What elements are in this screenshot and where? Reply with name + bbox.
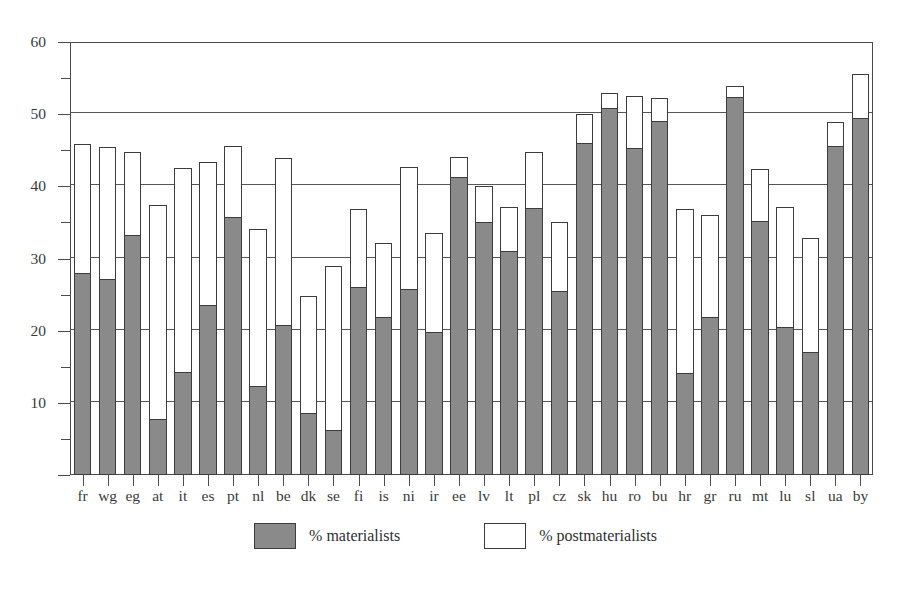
bar-group-is — [375, 42, 393, 475]
bar-group-by — [852, 42, 870, 475]
bar-group-eg — [124, 42, 142, 475]
bar-materialists-hr — [676, 373, 694, 475]
y-tick-minor-55 — [61, 78, 70, 79]
x-tick-pl — [534, 475, 535, 486]
y-tick-label-40: 40 — [31, 179, 47, 195]
bar-materialists-pl — [525, 208, 543, 475]
x-tick-label-ru: ru — [729, 488, 742, 504]
x-tick-wg — [108, 475, 109, 486]
x-tick-label-lu: lu — [779, 488, 791, 504]
x-tick-ua — [835, 475, 836, 486]
bar-group-ru — [726, 42, 744, 475]
x-tick-label-is: is — [379, 488, 389, 504]
bar-group-lu — [776, 42, 794, 475]
bar-group-wg — [99, 42, 117, 475]
x-tick-eg — [133, 475, 134, 486]
x-tick-by — [860, 475, 861, 486]
x-tick-is — [384, 475, 385, 486]
x-tick-label-bu: bu — [652, 488, 668, 504]
bars-layer — [70, 42, 873, 475]
bar-materialists-wg — [99, 279, 117, 475]
x-tick-fi — [359, 475, 360, 486]
bar-group-at — [149, 42, 167, 475]
y-tick-minor-25 — [61, 295, 70, 296]
x-tick-label-ro: ro — [628, 488, 641, 504]
x-tick-label-mt: mt — [752, 488, 768, 504]
bar-materialists-es — [199, 305, 217, 475]
y-tick-label-30: 30 — [31, 251, 47, 267]
bar-group-fi — [350, 42, 368, 475]
bar-group-hr — [676, 42, 694, 475]
x-tick-label-by: by — [853, 488, 869, 504]
x-tick-hu — [610, 475, 611, 486]
x-tick-label-fi: fi — [354, 488, 363, 504]
x-tick-label-sk: sk — [578, 488, 592, 504]
x-tick-label-lt: lt — [505, 488, 514, 504]
bar-materialists-fi — [350, 287, 368, 475]
x-tick-se — [333, 475, 334, 486]
x-tick-ee — [459, 475, 460, 486]
bar-group-pt — [224, 42, 242, 475]
x-tick-ro — [635, 475, 636, 486]
y-tick-20 — [58, 331, 70, 332]
x-tick-label-ee: ee — [452, 488, 466, 504]
x-tick-hr — [685, 475, 686, 486]
bar-group-fr — [74, 42, 92, 475]
x-tick-label-be: be — [276, 488, 291, 504]
bar-materialists-fr — [74, 273, 92, 475]
bar-materialists-ro — [626, 148, 644, 475]
x-tick-label-es: es — [202, 488, 215, 504]
bar-group-ir — [425, 42, 443, 475]
bar-group-be — [275, 42, 293, 475]
legend-swatch-postmaterialists — [484, 523, 526, 549]
y-tick-minor-15 — [61, 367, 70, 368]
bar-group-dk — [300, 42, 318, 475]
y-tick-40 — [58, 186, 70, 187]
x-axis: frwgegatitesptnlbedksefiisniireelvltplcz… — [70, 475, 873, 515]
x-tick-label-gr: gr — [703, 488, 716, 504]
x-tick-ir — [434, 475, 435, 486]
x-tick-ni — [409, 475, 410, 486]
bar-group-cz — [551, 42, 569, 475]
bar-materialists-it — [174, 372, 192, 475]
bar-group-nl — [249, 42, 267, 475]
legend-swatch-materialists — [254, 523, 296, 549]
y-tick-minor-45 — [61, 150, 70, 151]
legend-item-postmaterialists: % postmaterialists — [484, 523, 657, 549]
x-tick-sl — [810, 475, 811, 486]
x-tick-ru — [735, 475, 736, 486]
x-tick-be — [283, 475, 284, 486]
bar-materialists-hu — [601, 108, 619, 475]
bar-materialists-mt — [751, 221, 769, 475]
bar-materialists-cz — [551, 291, 569, 475]
x-tick-it — [183, 475, 184, 486]
x-tick-label-hu: hu — [602, 488, 618, 504]
x-tick-label-eg: eg — [125, 488, 140, 504]
x-tick-lu — [785, 475, 786, 486]
x-tick-gr — [710, 475, 711, 486]
x-tick-label-fr: fr — [77, 488, 87, 504]
x-tick-label-it: it — [179, 488, 188, 504]
x-tick-bu — [660, 475, 661, 486]
x-tick-fr — [83, 475, 84, 486]
x-tick-label-pt: pt — [227, 488, 239, 504]
bar-materialists-ua — [827, 146, 845, 475]
x-tick-label-at: at — [152, 488, 163, 504]
x-tick-label-wg: wg — [98, 488, 117, 504]
bar-group-mt — [751, 42, 769, 475]
x-tick-label-lv: lv — [478, 488, 490, 504]
bar-group-lv — [475, 42, 493, 475]
y-tick-label-50: 50 — [31, 106, 47, 122]
y-axis: 102030405060 — [0, 0, 70, 597]
y-tick-50 — [58, 114, 70, 115]
x-tick-label-nl: nl — [252, 488, 264, 504]
y-tick-0 — [58, 475, 70, 476]
x-tick-es — [208, 475, 209, 486]
x-tick-label-dk: dk — [301, 488, 317, 504]
bar-group-ro — [626, 42, 644, 475]
chart-root: 102030405060 frwgegatitesptnlbedksefiisn… — [0, 0, 911, 597]
y-tick-minor-5 — [61, 439, 70, 440]
bar-materialists-lv — [475, 222, 493, 475]
x-tick-label-se: se — [327, 488, 340, 504]
bar-materialists-lt — [500, 251, 518, 475]
